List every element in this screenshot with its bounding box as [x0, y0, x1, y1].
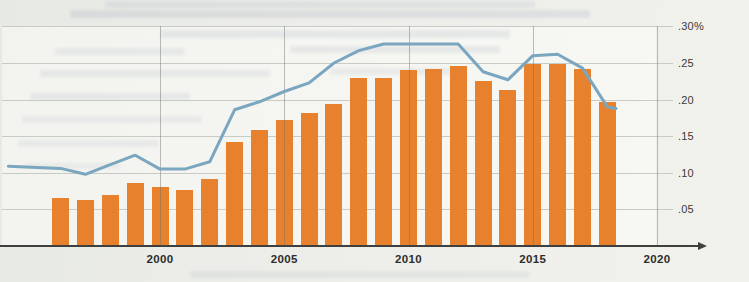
y-tick	[656, 136, 673, 137]
y-tick-label: .15	[678, 131, 694, 142]
bar-2007	[325, 104, 342, 246]
bleedthrough-artifact	[22, 116, 202, 123]
bar-2013	[475, 81, 492, 246]
bar-2008	[350, 78, 367, 246]
bleedthrough-artifact	[55, 48, 185, 55]
x-tick-label-2020: 2020	[644, 253, 671, 265]
bar-1998	[102, 195, 119, 246]
x-gridline-2010	[409, 26, 410, 246]
x-axis-arrow-icon	[698, 242, 707, 250]
x-axis-line	[0, 245, 698, 247]
bar-2004	[251, 130, 268, 246]
bar-2001	[176, 190, 193, 246]
bar-2016	[549, 64, 566, 246]
bleedthrough-artifact	[40, 70, 270, 77]
bar-2002	[201, 179, 218, 246]
scanned-page: .30%.25.20.15.10.0520002005201020152020	[0, 0, 749, 282]
x-gridline-2005	[284, 26, 285, 246]
x-gridline-2020	[657, 26, 658, 246]
bleedthrough-artifact	[18, 140, 158, 147]
x-gridline-2000	[160, 26, 161, 246]
bar-2012	[450, 66, 467, 246]
y-tick	[656, 100, 673, 101]
combo-chart: .30%.25.20.15.10.0520002005201020152020	[0, 0, 749, 282]
y-tick	[656, 26, 673, 27]
bar-1996	[52, 198, 69, 246]
x-tick-label-2000: 2000	[147, 253, 174, 265]
y-tick	[656, 173, 673, 174]
bar-2017	[574, 69, 591, 246]
x-gridline-2015	[533, 26, 534, 246]
y-tick	[656, 63, 673, 64]
bar-2003	[226, 142, 243, 246]
bar-1999	[127, 183, 144, 246]
x-tick-label-2005: 2005	[271, 253, 298, 265]
y-gridline	[2, 26, 656, 27]
bleedthrough-artifact	[105, 1, 535, 8]
bar-2009	[375, 78, 392, 246]
y-tick-label: .10	[678, 168, 694, 179]
bar-2006	[301, 113, 318, 246]
bleedthrough-artifact	[290, 46, 500, 53]
bar-2018	[599, 102, 616, 246]
x-tick-label-2010: 2010	[395, 253, 422, 265]
bleedthrough-artifact	[25, 163, 120, 169]
bar-2014	[499, 90, 516, 246]
bleedthrough-artifact	[70, 10, 590, 18]
y-tick-label: .05	[678, 204, 694, 215]
x-tick-label-2015: 2015	[519, 253, 546, 265]
y-tick-label: .20	[678, 95, 694, 106]
bar-2011	[425, 69, 442, 246]
bleedthrough-artifact	[190, 271, 530, 278]
y-tick-label: .25	[678, 58, 694, 69]
y-tick-label: .30%	[678, 21, 704, 32]
bleedthrough-artifact	[160, 30, 510, 38]
bar-1997	[77, 200, 94, 246]
y-tick	[656, 209, 673, 210]
